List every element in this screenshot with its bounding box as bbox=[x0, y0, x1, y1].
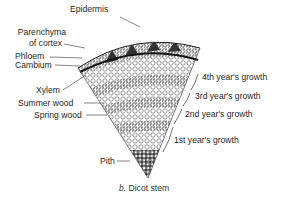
label-pith: Pith bbox=[100, 156, 115, 166]
caption-text: Dicot stem bbox=[128, 183, 169, 193]
label-summer-wood: Summer wood bbox=[18, 98, 73, 108]
label-cambium: Cambium bbox=[15, 60, 52, 70]
label-spring-wood: Spring wood bbox=[34, 110, 82, 120]
label-1st-year: 1st year's growth bbox=[174, 135, 239, 145]
label-parenchyma-line2: of cortex bbox=[0, 38, 62, 48]
label-epidermis: Epidermis bbox=[70, 4, 108, 14]
figure-caption: b. Dicot stem bbox=[0, 183, 288, 193]
label-xylem: Xylem bbox=[36, 85, 60, 95]
label-2nd-year: 2nd year's growth bbox=[185, 109, 253, 119]
label-4th-year: 4th year's growth bbox=[202, 72, 267, 82]
label-3rd-year: 3rd year's growth bbox=[195, 91, 261, 101]
caption-letter: b. bbox=[119, 183, 126, 193]
label-parenchyma-line1: Parenchyma bbox=[0, 27, 66, 37]
